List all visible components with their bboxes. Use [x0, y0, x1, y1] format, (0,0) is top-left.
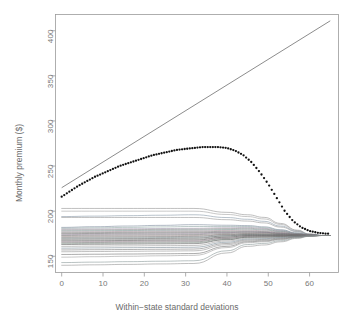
- data-point: [273, 193, 275, 195]
- data-point: [184, 148, 186, 150]
- data-point: [150, 154, 152, 156]
- data-point: [204, 146, 206, 148]
- data-point: [122, 164, 124, 166]
- data-point: [296, 223, 298, 225]
- data-point: [181, 148, 183, 150]
- data-point: [327, 233, 329, 235]
- data-point: [258, 170, 260, 172]
- data-point: [301, 227, 303, 229]
- data-point: [271, 189, 273, 191]
- data-point: [201, 146, 203, 148]
- data-point: [109, 169, 111, 171]
- x-tick-label: 10: [91, 279, 115, 288]
- data-point: [265, 181, 267, 183]
- data-point: [227, 147, 229, 149]
- data-point: [240, 153, 242, 155]
- data-point: [194, 147, 196, 149]
- data-point: [219, 146, 221, 148]
- data-point: [245, 156, 247, 158]
- data-point: [314, 231, 316, 233]
- y-tick-label: 250: [45, 165, 54, 193]
- data-point: [119, 165, 121, 167]
- data-point: [250, 161, 252, 163]
- x-tick-label: 30: [174, 279, 198, 288]
- data-point: [112, 168, 114, 170]
- data-point: [199, 146, 201, 148]
- data-point: [91, 177, 93, 179]
- data-point: [84, 181, 86, 183]
- data-point: [217, 146, 219, 148]
- data-point: [89, 178, 91, 180]
- data-point: [173, 149, 175, 151]
- data-point: [61, 196, 63, 198]
- data-point: [94, 176, 96, 178]
- data-point: [158, 153, 160, 155]
- data-point: [66, 192, 68, 194]
- data-point: [176, 149, 178, 151]
- data-point: [324, 233, 326, 235]
- data-point: [189, 147, 191, 149]
- data-point: [322, 232, 324, 234]
- data-point: [168, 150, 170, 152]
- data-point: [81, 183, 83, 185]
- data-point: [286, 213, 288, 215]
- data-point: [63, 194, 65, 196]
- data-point: [125, 163, 127, 165]
- data-point: [222, 146, 224, 148]
- data-point: [107, 170, 109, 172]
- data-point: [78, 184, 80, 186]
- data-point: [248, 159, 250, 161]
- data-point: [304, 228, 306, 230]
- data-point: [160, 152, 162, 154]
- data-point: [319, 232, 321, 234]
- data-point: [96, 175, 98, 177]
- data-point: [299, 225, 301, 227]
- data-point: [68, 191, 70, 193]
- data-point: [224, 147, 226, 149]
- data-point: [130, 161, 132, 163]
- data-point: [135, 160, 137, 162]
- data-point: [127, 162, 129, 164]
- data-point: [163, 152, 165, 154]
- x-tick-label: 60: [298, 279, 322, 288]
- data-point: [291, 219, 293, 221]
- data-point: [214, 146, 216, 148]
- data-point: [178, 148, 180, 150]
- data-point: [260, 173, 262, 175]
- data-point: [117, 166, 119, 168]
- data-point: [71, 189, 73, 191]
- data-point: [235, 150, 237, 152]
- data-point: [102, 172, 104, 174]
- data-point: [137, 159, 139, 161]
- data-point: [278, 201, 280, 203]
- x-axis-title: Within−state standard deviations: [0, 302, 354, 312]
- data-point: [166, 151, 168, 153]
- data-point: [263, 177, 265, 179]
- data-point: [253, 164, 255, 166]
- data-point: [191, 147, 193, 149]
- data-point: [86, 180, 88, 182]
- data-point: [153, 154, 155, 156]
- data-point: [140, 158, 142, 160]
- reference-line: [62, 21, 331, 188]
- data-point: [104, 171, 106, 173]
- x-tick-label: 40: [215, 279, 239, 288]
- y-tick-label: 350: [45, 74, 54, 102]
- chart-figure: 0102030405060 150200250300350400 Within−…: [0, 0, 354, 325]
- data-point: [148, 155, 150, 157]
- x-tick-label: 20: [132, 279, 156, 288]
- data-point: [309, 230, 311, 232]
- data-point: [196, 146, 198, 148]
- data-point: [268, 184, 270, 186]
- data-point: [312, 231, 314, 233]
- data-point: [281, 205, 283, 207]
- data-point: [306, 229, 308, 231]
- data-point: [207, 146, 209, 148]
- data-point: [99, 173, 101, 175]
- data-point: [73, 187, 75, 189]
- y-tick-label: 300: [45, 119, 54, 147]
- data-point: [276, 197, 278, 199]
- data-point: [209, 146, 211, 148]
- data-point: [230, 148, 232, 150]
- data-point: [289, 216, 291, 218]
